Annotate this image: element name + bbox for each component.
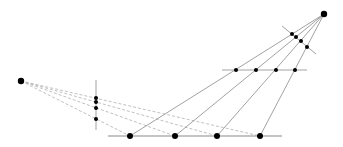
middle-point [274, 68, 278, 72]
middle-point [254, 68, 258, 72]
left-center [18, 78, 24, 84]
bottom-point [257, 133, 263, 139]
vertical-point [94, 117, 98, 121]
middle-point [293, 68, 297, 72]
vertical-point [94, 100, 98, 104]
tilted-point [294, 35, 298, 39]
tilted-point [290, 32, 294, 36]
diagram-svg [0, 0, 343, 147]
dashed-ray [21, 81, 217, 136]
solid-ray [217, 14, 324, 136]
points-layer [18, 11, 327, 139]
dashed-ray [21, 81, 175, 136]
tilted-point [299, 39, 303, 43]
tilted-point [305, 45, 309, 49]
solid-ray [130, 14, 324, 136]
bottom-point [172, 133, 178, 139]
solid-projection-rays [130, 14, 324, 136]
projection-diagram [0, 0, 343, 147]
vertical-point [94, 96, 98, 100]
tilted-line [282, 26, 316, 54]
solid-ray [175, 14, 324, 136]
construction-lines [96, 26, 316, 136]
top-right-center [321, 11, 327, 17]
dashed-ray [21, 81, 130, 136]
bottom-point [214, 133, 220, 139]
middle-point [234, 68, 238, 72]
bottom-point [127, 133, 133, 139]
vertical-point [94, 106, 98, 110]
